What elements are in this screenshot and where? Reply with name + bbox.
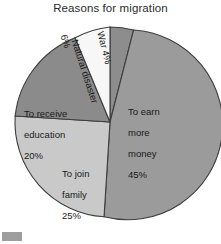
slice-label-to-receive-education: To receive education 20% xyxy=(24,98,67,172)
slice-label-value: 25% xyxy=(62,211,89,222)
pie-chart-figure: Reasons for migration To earn more money… xyxy=(0,0,221,244)
corner-swatch-artifact xyxy=(2,232,22,241)
slice-label-line: family xyxy=(62,190,89,201)
slice-label-line: education xyxy=(24,130,67,141)
slice-label-line: To receive xyxy=(24,109,67,120)
slice-label-line: more xyxy=(128,128,160,139)
slice-label-value: 45% xyxy=(128,170,160,181)
slice-label-value: 6% xyxy=(59,33,74,49)
slice-label-line: To earn xyxy=(128,107,160,118)
slice-label-line: money xyxy=(128,149,160,160)
slice-label-to-earn-more-money: To earn more money 45% xyxy=(128,96,160,191)
slice-label-value: 20% xyxy=(24,151,67,162)
